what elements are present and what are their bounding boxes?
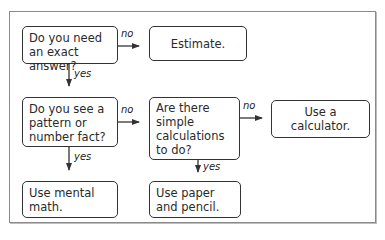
box-calculator: Use a calculator. [271,100,370,138]
box-text: Use a calculator. [278,105,363,133]
box-pattern: Do you see a pattern or number fact? [22,97,118,147]
box-exact-answer: Do you need an exact answer? [22,26,118,64]
label-no-2: no [121,104,133,115]
box-text: Use paper and pencil. [156,186,219,214]
label-yes-3: yes [203,161,220,172]
box-paper-pencil: Use paper and pencil. [149,181,241,218]
label-no-3: no [243,100,255,111]
box-text: Estimate. [171,37,225,51]
box-text: Use mental math. [29,186,94,214]
box-simple-calculations: Are there simple calculations to do? [149,97,240,160]
box-estimate: Estimate. [149,26,247,61]
box-text: Do you see a pattern or number fact? [29,102,106,144]
box-text: Are there simple calculations to do? [156,101,224,157]
label-yes-2: yes [74,151,91,162]
label-yes-1: yes [74,68,91,79]
box-mental-math: Use mental math. [22,181,118,218]
label-no-1: no [121,28,133,39]
